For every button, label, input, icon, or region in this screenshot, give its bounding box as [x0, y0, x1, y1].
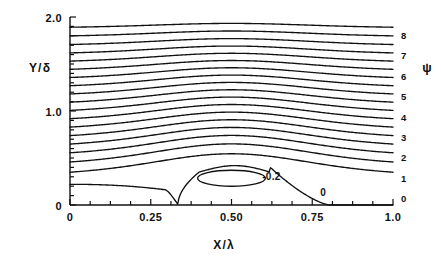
legend-level-label: 0	[401, 193, 406, 204]
contour-value-label: -0.2	[262, 171, 281, 182]
legend-level-label: 7	[401, 50, 406, 61]
y-axis-tick-label: 1.0	[46, 106, 63, 118]
psi-symbol-label: ψ	[422, 61, 431, 75]
x-axis-tick-label: 0.25	[139, 211, 162, 223]
legend-level-label: 6	[401, 71, 406, 82]
x-axis-tick-label: 0.50	[220, 211, 243, 223]
y-axis-tick-label: 2.0	[46, 12, 63, 24]
y-axis-tick-label: 0	[55, 200, 62, 212]
legend-level-label: 5	[401, 91, 407, 102]
x-axis-title: X/λ	[213, 238, 235, 252]
legend-level-label: 3	[401, 132, 406, 143]
contour-value-label: 0	[320, 187, 326, 198]
legend-level-labels: 876543210	[401, 30, 407, 204]
streamline-contour-plot: 00.250.500.751.0 01.02.0 876543210 -0.20…	[0, 0, 441, 264]
x-axis-tick-label: 0	[67, 211, 74, 223]
y-axis-title: Y/δ	[29, 61, 51, 75]
figure-container: 00.250.500.751.0 01.02.0 876543210 -0.20…	[0, 0, 441, 264]
legend-level-label: 8	[401, 30, 406, 41]
legend-level-label: 4	[401, 112, 407, 123]
plot-background	[0, 0, 441, 264]
x-axis-tick-label: 0.75	[301, 211, 324, 223]
legend-level-label: 1	[401, 173, 407, 184]
legend-level-label: 2	[401, 152, 406, 163]
x-axis-tick-label: 1.0	[385, 211, 402, 223]
